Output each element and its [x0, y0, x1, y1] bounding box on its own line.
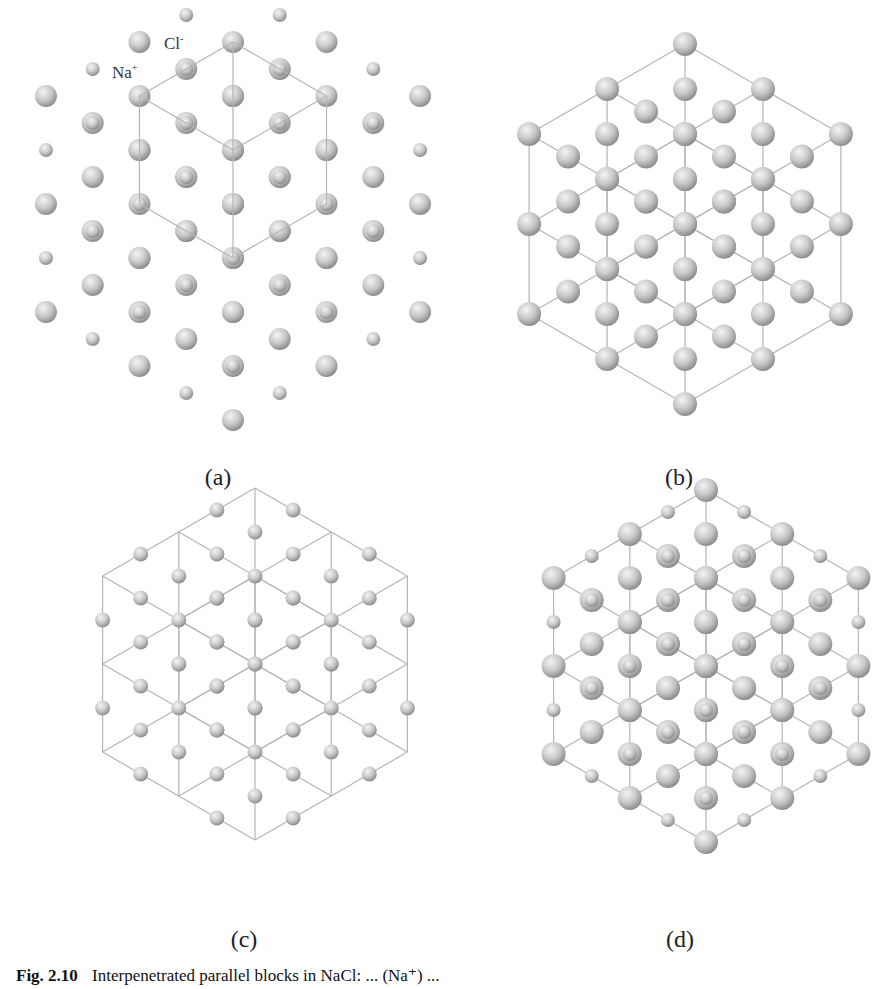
panel-c-structure	[0, 480, 450, 940]
panel-c: (c)	[0, 480, 450, 940]
panel-d-structure	[450, 480, 891, 940]
figure-caption-text: Interpenetrated parallel blocks in NaCl:…	[92, 966, 439, 985]
panel-d-label: (d)	[650, 926, 710, 953]
panel-b-structure	[450, 0, 891, 500]
figure-caption: Fig. 2.10 Interpenetrated parallel block…	[0, 965, 891, 989]
panel-a: Cl- Na+ (a)	[0, 0, 450, 470]
figure-number: Fig. 2.10	[16, 966, 78, 985]
panel-c-label: (c)	[214, 926, 274, 953]
panel-a-structure	[0, 0, 450, 470]
cl-ion-label: Cl-	[164, 33, 183, 54]
na-ion-label: Na+	[112, 62, 137, 83]
panel-b: (b)	[450, 0, 891, 500]
panel-d: (d)	[450, 480, 891, 940]
